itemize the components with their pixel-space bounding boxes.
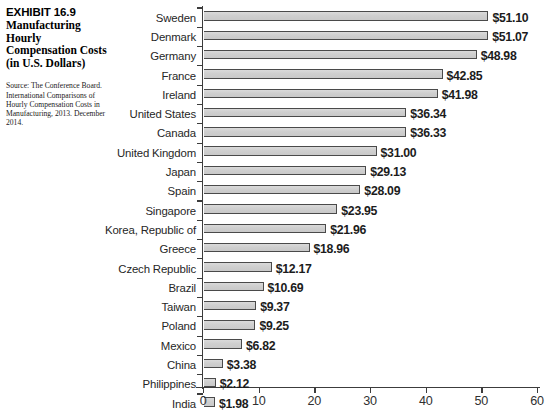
category-label: United States <box>130 108 196 120</box>
x-axis-tick <box>370 388 371 393</box>
bar <box>204 204 337 213</box>
category-label: Poland <box>161 320 196 332</box>
category-label: Brazil <box>168 282 196 294</box>
bar-row: Sweden$51.10 <box>203 8 537 27</box>
value-label: $29.13 <box>370 165 406 179</box>
y-axis-tick <box>197 27 203 28</box>
bar-row: United States$36.34 <box>203 105 537 124</box>
y-axis-tick <box>197 278 203 279</box>
plot-area: Sweden$51.10Denmark$51.07Germany$48.98Fr… <box>203 8 537 387</box>
value-label: $51.07 <box>492 30 528 44</box>
category-label: Ireland <box>162 89 196 101</box>
category-label: Canada <box>157 127 196 139</box>
value-label: $28.09 <box>364 184 400 198</box>
bar-row: Korea, Republic of$21.96 <box>203 220 537 239</box>
value-label: $21.96 <box>330 223 366 237</box>
category-label: France <box>161 70 196 82</box>
category-label: Singapore <box>145 205 196 217</box>
value-label: $3.38 <box>227 358 256 372</box>
value-label: $12.17 <box>276 262 312 276</box>
y-axis-tick <box>197 7 203 8</box>
y-axis-tick <box>197 143 203 144</box>
x-axis-tick <box>203 388 204 393</box>
x-axis-tick-label: 60 <box>530 394 543 408</box>
x-axis-tick-label: 30 <box>363 394 376 408</box>
bar-row: Germany$48.98 <box>203 47 537 66</box>
bar <box>204 89 438 98</box>
category-label: Sweden <box>156 12 196 24</box>
y-axis-tick <box>197 336 203 337</box>
y-axis-tick <box>197 316 203 317</box>
value-label: $36.34 <box>410 107 446 121</box>
bar <box>204 339 242 348</box>
value-label: $1.98 <box>219 397 248 411</box>
category-label: Czech Republic <box>118 263 196 275</box>
bar <box>204 378 216 387</box>
value-label: $23.95 <box>341 204 377 218</box>
y-axis-tick <box>197 123 203 124</box>
x-axis-tick-label: 20 <box>308 394 321 408</box>
category-label: Philippines <box>143 378 196 390</box>
bar <box>204 262 272 271</box>
bar <box>204 127 406 136</box>
bar-row: Spain$28.09 <box>203 182 537 201</box>
bar-row: Canada$36.33 <box>203 124 537 143</box>
bar-row: Ireland$41.98 <box>203 85 537 104</box>
bar <box>204 185 360 194</box>
y-axis-tick <box>197 239 203 240</box>
bar <box>204 108 406 117</box>
y-axis-tick <box>197 65 203 66</box>
category-label: United Kingdom <box>117 147 196 159</box>
bar-row: Greece$18.96 <box>203 240 537 259</box>
y-axis-tick <box>197 374 203 375</box>
y-axis-tick <box>197 258 203 259</box>
y-axis-tick <box>197 104 203 105</box>
bar-row: Mexico$6.82 <box>203 336 537 355</box>
x-axis-tick-label: 50 <box>475 394 488 408</box>
x-axis-tick <box>426 388 427 393</box>
bar <box>204 31 488 40</box>
x-axis-tick <box>259 388 260 393</box>
y-axis-tick <box>197 46 203 47</box>
category-label: Japan <box>166 166 196 178</box>
value-label: $48.98 <box>481 49 517 63</box>
x-axis-tick <box>537 388 538 393</box>
value-label: $2.12 <box>220 377 249 391</box>
bar <box>204 359 223 368</box>
y-axis-tick <box>197 181 203 182</box>
value-label: $18.96 <box>314 242 350 256</box>
value-label: $9.37 <box>260 300 289 314</box>
value-label: $51.10 <box>492 11 528 25</box>
bar <box>204 69 443 78</box>
y-axis-tick <box>197 162 203 163</box>
bar-row: Singapore$23.95 <box>203 201 537 220</box>
category-label: Greece <box>160 243 196 255</box>
bar <box>204 50 477 59</box>
bar <box>204 301 256 310</box>
category-label: Mexico <box>161 340 196 352</box>
value-label: $36.33 <box>410 126 446 140</box>
x-axis-tick <box>481 388 482 393</box>
bar-row: China$3.38 <box>203 355 537 374</box>
bar-row: Taiwan$9.37 <box>203 298 537 317</box>
x-axis-tick-label: 40 <box>419 394 432 408</box>
category-label: Spain <box>168 185 196 197</box>
bar-chart: Sweden$51.10Denmark$51.07Germany$48.98Fr… <box>0 0 554 419</box>
category-label: Denmark <box>151 31 196 43</box>
bar-row: Poland$9.25 <box>203 317 537 336</box>
category-label: Korea, Republic of <box>105 224 196 236</box>
y-axis-tick <box>197 220 203 221</box>
category-label: India <box>172 398 196 410</box>
category-label: China <box>167 359 196 371</box>
y-axis-tick <box>197 200 203 201</box>
category-label: Germany <box>150 50 196 62</box>
bar-row: United Kingdom$31.00 <box>203 143 537 162</box>
bar-row: Czech Republic$12.17 <box>203 259 537 278</box>
bar <box>204 166 366 175</box>
value-label: $6.82 <box>246 339 275 353</box>
y-axis-tick <box>197 355 203 356</box>
bar <box>204 320 255 329</box>
x-axis-tick-label: 10 <box>252 394 265 408</box>
category-label: Taiwan <box>161 301 196 313</box>
bar-row: Brazil$10.69 <box>203 278 537 297</box>
